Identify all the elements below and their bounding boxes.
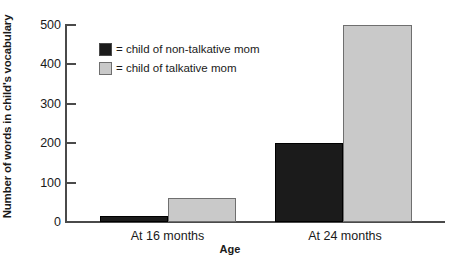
bar-16months-non-talkative	[100, 216, 168, 222]
x-category-label-24-months: At 24 months	[275, 229, 415, 244]
dark-square-swatch-icon	[99, 43, 112, 56]
legend-item-non-talkative: = child of non-talkative mom	[99, 40, 260, 59]
bar-chart: Number of words in child's vocabulary 50…	[0, 0, 458, 272]
bar-16months-talkative	[168, 198, 236, 222]
x-axis-title: Age	[190, 243, 270, 256]
y-tick-label-400: 400	[27, 58, 61, 70]
y-axis-title: Number of words in child's vocabulary	[0, 9, 14, 224]
y-tick-label-300: 300	[27, 98, 61, 110]
light-square-swatch-icon	[99, 62, 112, 75]
legend-label-talkative: = child of talkative mom	[116, 62, 236, 75]
legend: = child of non-talkative mom = child of …	[99, 40, 260, 78]
y-tick-label-200: 200	[27, 137, 61, 149]
y-tick-label-500: 500	[27, 19, 61, 31]
y-tick-label-100: 100	[27, 177, 61, 189]
x-category-label-16-months: At 16 months	[100, 229, 235, 244]
legend-label-non-talkative: = child of non-talkative mom	[116, 43, 260, 56]
bar-24months-non-talkative	[275, 143, 343, 222]
bar-24months-talkative	[343, 25, 412, 222]
y-tick-label-0: 0	[27, 216, 61, 228]
legend-item-talkative: = child of talkative mom	[99, 59, 260, 78]
y-axis-tick-labels: 500 400 300 200 100 0	[22, 0, 61, 272]
